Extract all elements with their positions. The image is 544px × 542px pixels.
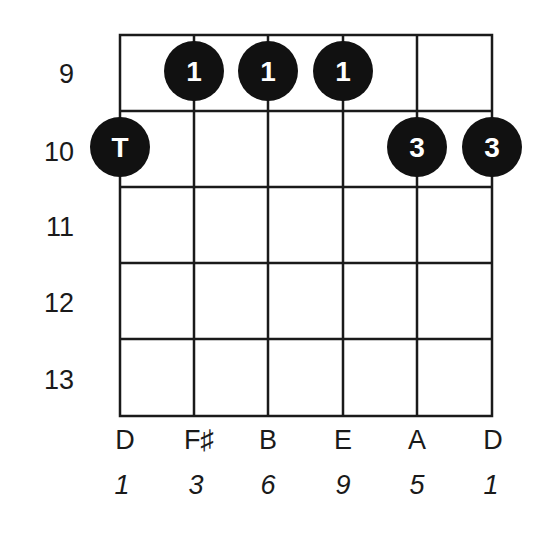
finger-dot: 3 <box>387 117 447 177</box>
dot-finger-label: 1 <box>186 56 202 87</box>
fret-label: 13 <box>14 367 74 394</box>
fret-label: 12 <box>14 290 74 317</box>
note-label: D <box>468 427 518 454</box>
finger-dot: 1 <box>238 41 298 101</box>
note-label: E <box>318 427 368 454</box>
degree-label: 5 <box>392 472 442 499</box>
chord-diagram: T11133 <box>0 0 544 542</box>
note-label: D <box>100 427 150 454</box>
dot-finger-label: 1 <box>260 56 276 87</box>
dot-finger-label: 1 <box>335 56 351 87</box>
fret-label: 9 <box>14 61 74 88</box>
degree-label: 9 <box>318 472 368 499</box>
finger-dots: T11133 <box>90 41 522 177</box>
fret-label: 11 <box>14 214 74 241</box>
finger-dot: T <box>90 117 150 177</box>
dot-finger-label: 3 <box>484 132 500 163</box>
note-label: F♯ <box>174 427 224 454</box>
dot-finger-label: 3 <box>409 132 425 163</box>
degree-label: 6 <box>243 472 293 499</box>
note-label: B <box>243 427 293 454</box>
fret-label: 10 <box>14 139 74 166</box>
degree-label: 1 <box>466 472 516 499</box>
degree-label: 1 <box>97 472 147 499</box>
finger-dot: 1 <box>313 41 373 101</box>
finger-dot: 3 <box>462 117 522 177</box>
dot-finger-label: T <box>111 132 128 163</box>
finger-dot: 1 <box>164 41 224 101</box>
degree-label: 3 <box>171 472 221 499</box>
note-label: A <box>392 427 442 454</box>
